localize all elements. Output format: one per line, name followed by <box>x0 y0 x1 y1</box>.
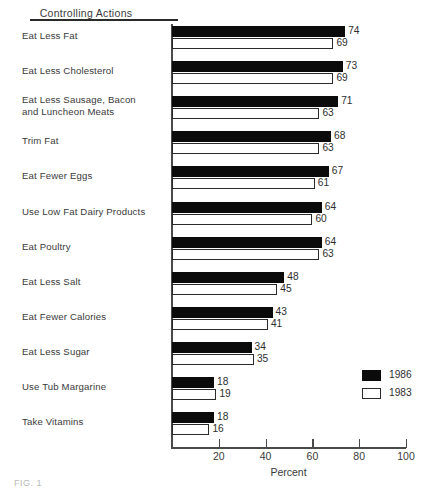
bar-1986 <box>172 272 284 283</box>
bar-1986 <box>172 202 322 213</box>
category-label-line: Use Tub Margarine <box>22 381 170 393</box>
bar-1986 <box>172 61 343 72</box>
category-label: Take Vitamins <box>22 416 170 428</box>
bar-1986 <box>172 412 214 423</box>
category-label-line: Take Vitamins <box>22 416 170 428</box>
figure-caption: FIG. 1 <box>14 478 42 487</box>
category-label: Eat Less Salt <box>22 276 170 288</box>
legend-swatch-icon-1986 <box>362 370 381 381</box>
category-label-line: Eat Fewer Eggs <box>22 170 170 182</box>
bar-1986 <box>172 96 338 107</box>
chart-row: Eat Fewer Calories4341 <box>0 307 431 330</box>
x-axis-tick-label: 100 <box>397 450 415 462</box>
bar-1983 <box>172 284 277 295</box>
bar-value-label: 71 <box>341 95 352 106</box>
category-label-line: Eat Less Sugar <box>22 346 170 358</box>
bar-value-label: 34 <box>255 341 266 352</box>
bar-1983 <box>172 38 333 49</box>
bar-value-label: 35 <box>257 353 268 364</box>
x-axis-tick-label: 60 <box>307 450 319 462</box>
chart-row: Eat Less Salt4845 <box>0 272 431 295</box>
bar-1986 <box>172 26 345 37</box>
bar-value-label: 63 <box>322 107 333 118</box>
bar-1983 <box>172 249 319 260</box>
x-axis-tick <box>219 439 220 448</box>
category-label-line: Eat Fewer Calories <box>22 311 170 323</box>
bar-1983 <box>172 178 315 189</box>
bar-value-label: 64 <box>325 201 336 212</box>
chart-row: Eat Fewer Eggs6761 <box>0 166 431 189</box>
category-label-line: Eat Less Salt <box>22 276 170 288</box>
column-header-rule <box>30 19 178 21</box>
chart-row: Eat Less Cholesterol7369 <box>0 61 431 84</box>
category-label: Eat Less Cholesterol <box>22 65 170 77</box>
category-label: Eat Fewer Calories <box>22 311 170 323</box>
chart-row: Take Vitamins1816 <box>0 412 431 435</box>
category-label: Trim Fat <box>22 135 170 147</box>
category-label-line: and Luncheon Meats <box>22 106 170 118</box>
bar-1983 <box>172 319 268 330</box>
category-label-line: Eat Less Fat <box>22 30 170 42</box>
chart-row: Eat Poultry6463 <box>0 237 431 260</box>
x-axis-tick <box>406 439 407 448</box>
category-label: Use Low Fat Dairy Products <box>22 206 170 218</box>
bar-1983 <box>172 389 216 400</box>
x-axis-tick <box>359 439 360 448</box>
bar-1983 <box>172 108 319 119</box>
category-label-line: Eat Poultry <box>22 241 170 253</box>
x-axis-tick-label: 40 <box>260 450 272 462</box>
chart-row: Trim Fat6863 <box>0 131 431 154</box>
bar-value-label: 63 <box>322 142 333 153</box>
category-label: Eat Poultry <box>22 241 170 253</box>
bar-value-label: 64 <box>325 236 336 247</box>
bar-value-label: 69 <box>336 72 347 83</box>
bar-1983 <box>172 73 333 84</box>
category-label-line: Eat Less Cholesterol <box>22 65 170 77</box>
legend-label-1986: 1986 <box>389 369 412 380</box>
bar-value-label: 61 <box>318 177 329 188</box>
category-label: Eat Less Fat <box>22 30 170 42</box>
bar-value-label: 69 <box>336 37 347 48</box>
bar-value-label: 41 <box>271 318 282 329</box>
bar-1986 <box>172 307 273 318</box>
bar-value-label: 45 <box>280 283 291 294</box>
x-axis-title: Percent <box>171 466 406 478</box>
chart-row: Eat Less Sugar3435 <box>0 342 431 365</box>
bar-value-label: 16 <box>212 423 223 434</box>
x-axis-tick-label: 80 <box>353 450 365 462</box>
bar-value-label: 60 <box>315 213 326 224</box>
bar-value-label: 48 <box>287 271 298 282</box>
bar-1986 <box>172 131 331 142</box>
category-label: Eat Less Sausage, Baconand Luncheon Meat… <box>22 94 170 117</box>
legend-label-1983: 1983 <box>389 387 412 398</box>
x-axis-tick <box>266 439 267 448</box>
category-label: Eat Fewer Eggs <box>22 170 170 182</box>
bar-1983 <box>172 424 209 435</box>
bar-value-label: 73 <box>346 60 357 71</box>
chart-row: Eat Less Fat7469 <box>0 26 431 49</box>
bar-1983 <box>172 214 312 225</box>
x-axis-line <box>171 447 406 449</box>
bar-1986 <box>172 237 322 248</box>
category-label-line: Trim Fat <box>22 135 170 147</box>
bar-value-label: 18 <box>217 376 228 387</box>
x-axis-tick-label: 20 <box>213 450 225 462</box>
category-label: Eat Less Sugar <box>22 346 170 358</box>
bar-value-label: 67 <box>332 165 343 176</box>
bar-1983 <box>172 143 319 154</box>
bar-1983 <box>172 354 254 365</box>
bar-1986 <box>172 342 252 353</box>
bar-value-label: 18 <box>217 411 228 422</box>
category-label: Use Tub Margarine <box>22 381 170 393</box>
category-label-line: Eat Less Sausage, Bacon <box>22 94 170 106</box>
x-axis-tick <box>312 439 313 448</box>
bar-value-label: 63 <box>322 248 333 259</box>
bar-chart: Controlling Actions 20406080100 Percent … <box>0 0 431 489</box>
chart-row: Eat Less Sausage, Baconand Luncheon Meat… <box>0 96 431 119</box>
category-label-line: Use Low Fat Dairy Products <box>22 206 170 218</box>
bar-1986 <box>172 166 329 177</box>
bar-value-label: 19 <box>219 388 230 399</box>
bar-value-label: 43 <box>276 306 287 317</box>
bar-value-label: 74 <box>348 25 359 36</box>
legend-swatch-icon-1983 <box>362 388 381 399</box>
